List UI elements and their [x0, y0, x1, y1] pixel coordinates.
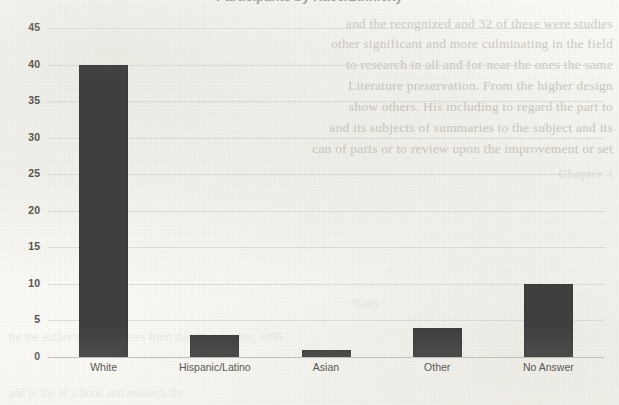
y-tick-label-15: 15	[0, 241, 40, 252]
y-tick-label-5: 5	[0, 314, 40, 325]
x-axis-category-labels: WhiteHispanic/LatinoAsianOtherNo Answer	[48, 362, 604, 384]
y-tick-label-40: 40	[0, 59, 40, 70]
bar-other	[413, 328, 462, 357]
scanned-chart-page: and the recognized and 32 of these were …	[0, 0, 619, 405]
bar-series	[48, 28, 604, 357]
y-tick-label-10: 10	[0, 278, 40, 289]
x-label-asian: Asian	[270, 362, 381, 374]
bar-white	[79, 65, 128, 357]
y-tick-label-45: 45	[0, 22, 40, 33]
y-tick-label-20: 20	[0, 205, 40, 216]
bar-asian	[302, 350, 351, 357]
y-tick-label-25: 25	[0, 168, 40, 179]
y-axis-tick-labels: 454035302520151050	[0, 28, 40, 357]
x-label-hispanic-latino: Hispanic/Latino	[159, 362, 270, 374]
bar-chart: 454035302520151050 WhiteHispanic/LatinoA…	[0, 0, 619, 405]
axis-baseline	[48, 357, 604, 358]
bar-no-answer	[524, 284, 573, 357]
y-tick-label-35: 35	[0, 95, 40, 106]
bar-hispanic-latino	[190, 335, 239, 357]
x-label-other: Other	[382, 362, 493, 374]
x-label-no-answer: No Answer	[493, 362, 604, 374]
x-label-white: White	[48, 362, 159, 374]
y-tick-label-0: 0	[0, 351, 40, 362]
y-tick-label-30: 30	[0, 132, 40, 143]
